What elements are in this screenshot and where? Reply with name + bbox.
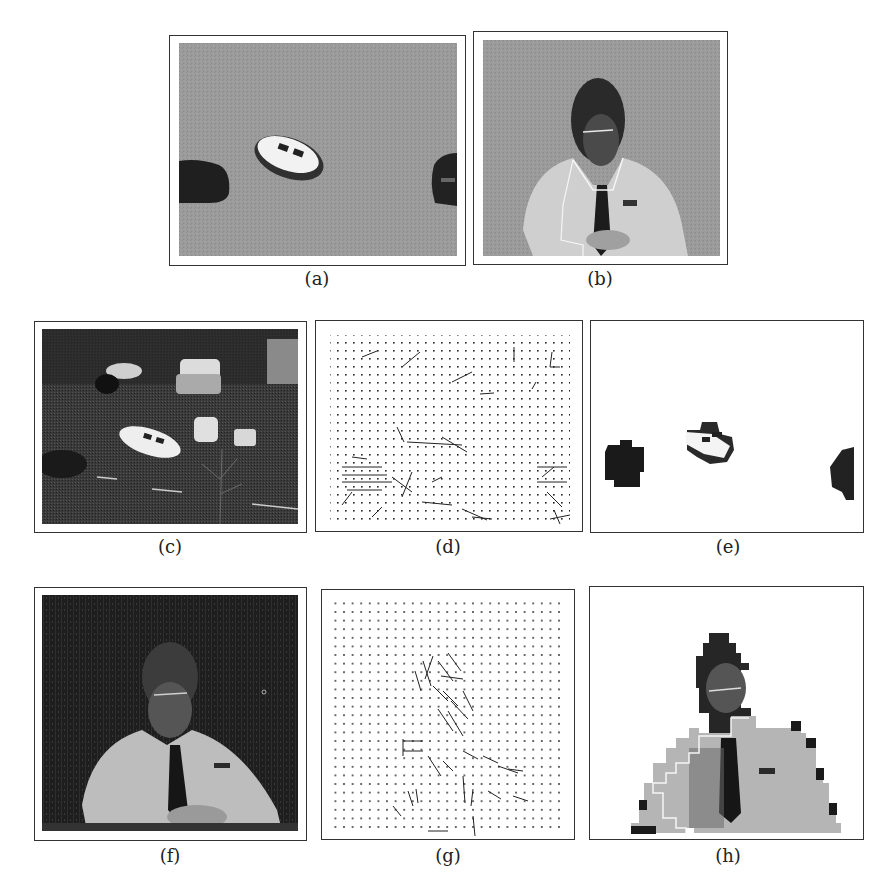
panel-d-caption: (d) bbox=[428, 536, 468, 557]
panel-f-image bbox=[42, 595, 298, 831]
panel-g-image bbox=[323, 591, 573, 838]
panel-d-image bbox=[322, 327, 576, 525]
panel-h-caption: (h) bbox=[708, 845, 748, 866]
panel-g-caption: (g) bbox=[428, 845, 468, 866]
panel-b-caption: (b) bbox=[580, 268, 620, 289]
panel-a-caption: (a) bbox=[297, 268, 337, 289]
panel-b-image bbox=[483, 40, 720, 256]
panel-a-image bbox=[179, 43, 457, 256]
panel-h-image bbox=[591, 588, 862, 838]
panel-c-caption: (c) bbox=[150, 536, 190, 557]
panel-e-image bbox=[592, 322, 862, 531]
panel-c-image bbox=[42, 329, 298, 524]
panel-f-caption: (f) bbox=[150, 845, 190, 866]
panel-e-caption: (e) bbox=[708, 536, 748, 557]
